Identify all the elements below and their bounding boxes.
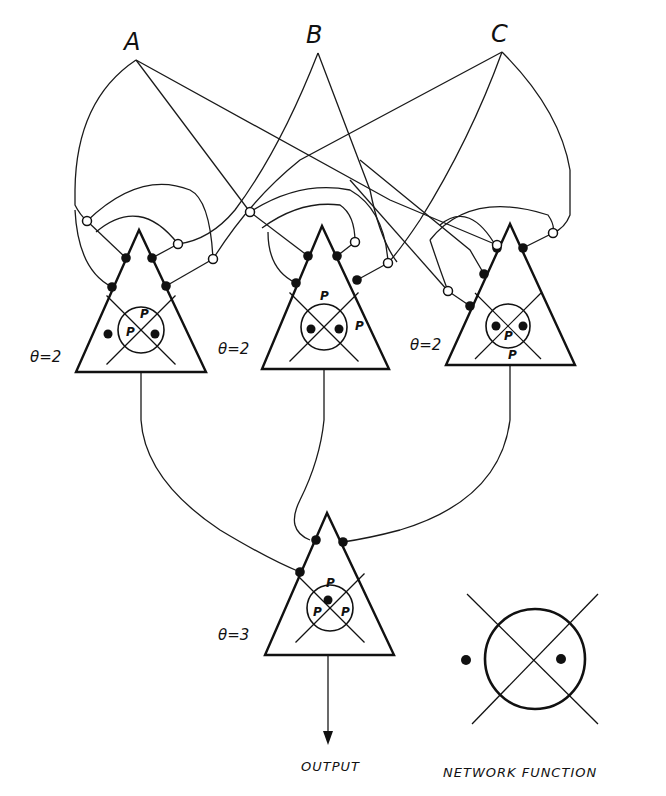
- inhibitory-synapse-icon: [444, 287, 453, 296]
- legend-dot: [461, 655, 471, 665]
- excitatory-synapse-icon: [465, 301, 475, 311]
- p-label: P: [508, 348, 517, 362]
- p-label: P: [504, 329, 513, 343]
- wire: [166, 259, 213, 286]
- unit-2: PPθ=2: [218, 226, 389, 369]
- wire: [250, 212, 308, 256]
- excitatory-synapse-icon: [303, 251, 313, 261]
- inhibitory-synapse-icon: [384, 259, 393, 268]
- output: OUTPUT: [301, 655, 360, 774]
- function-dot: [104, 330, 113, 339]
- threshold-label: θ=2: [410, 336, 441, 354]
- inhibitory-synapse-icon: [83, 217, 92, 226]
- p-label: P: [140, 307, 149, 321]
- excitatory-synapse-icon: [291, 278, 301, 288]
- inhibitory-synapse-icon: [493, 241, 502, 250]
- function-dot: [492, 322, 501, 331]
- wire: [87, 221, 126, 258]
- function-dot: [324, 596, 333, 605]
- wire: [262, 204, 355, 242]
- p-label: P: [326, 576, 335, 590]
- wire: [96, 216, 178, 244]
- threshold-label: θ=2: [218, 340, 249, 358]
- wire: [75, 60, 136, 221]
- inhibitory-synapse-icon: [549, 229, 558, 238]
- wire: [268, 232, 296, 283]
- p-label: P: [313, 605, 322, 619]
- excitatory-synapse-icon: [121, 253, 131, 263]
- excitatory-synapse-icon: [107, 282, 117, 292]
- wire: [502, 52, 570, 233]
- wire: [388, 52, 502, 263]
- p-label: P: [320, 289, 329, 303]
- wire: [75, 210, 112, 287]
- threshold-label: θ=2: [30, 348, 61, 366]
- function-dot: [335, 325, 344, 334]
- input-label-C: C: [491, 20, 508, 48]
- legend-dot: [556, 654, 566, 664]
- output-label: OUTPUT: [301, 759, 360, 774]
- threshold-unit-triangle: [446, 224, 575, 365]
- perceptron-network-diagram: PPθ=2PPθ=2PPθ=2PPPθ=3 ABC OUTPUT NETWORK…: [0, 0, 666, 796]
- inhibitory-synapse-icon: [351, 238, 360, 247]
- function-dot: [519, 322, 528, 331]
- wire: [294, 369, 324, 540]
- p-label: P: [126, 325, 135, 339]
- excitatory-synapse-icon: [147, 253, 157, 263]
- wire: [141, 372, 300, 572]
- connection-wires: [75, 52, 570, 572]
- p-label: P: [355, 319, 364, 333]
- wire: [357, 263, 388, 280]
- input-label-B: B: [306, 21, 322, 49]
- excitatory-synapse-icon: [332, 251, 342, 261]
- output-arrowhead-icon: [323, 731, 333, 745]
- threshold-label: θ=3: [218, 626, 249, 644]
- p-label: P: [341, 605, 350, 619]
- wire: [430, 207, 553, 240]
- legend-caption: NETWORK FUNCTION: [443, 765, 597, 780]
- wire: [87, 184, 213, 259]
- excitatory-synapse-icon: [295, 567, 305, 577]
- network-function-legend: NETWORK FUNCTION: [443, 594, 598, 780]
- inhibitory-synapse-icon: [246, 208, 255, 217]
- wire: [318, 53, 397, 262]
- excitatory-synapse-icon: [161, 281, 171, 291]
- input-nodes: ABC: [122, 20, 508, 56]
- excitatory-synapse-icon: [338, 537, 348, 547]
- threshold-unit-triangle: [76, 230, 206, 372]
- inhibitory-synapse-icon: [209, 255, 218, 264]
- function-dot: [307, 325, 316, 334]
- wire: [343, 365, 510, 542]
- input-label-A: A: [122, 28, 140, 56]
- excitatory-synapse-icon: [479, 269, 489, 279]
- inhibitory-synapse-icon: [174, 240, 183, 249]
- network-canvas: PPθ=2PPθ=2PPθ=2PPPθ=3 ABC OUTPUT NETWORK…: [0, 0, 666, 796]
- wire: [136, 60, 250, 212]
- function-dot: [151, 330, 160, 339]
- excitatory-synapse-icon: [311, 535, 321, 545]
- wire: [430, 240, 448, 291]
- wire: [136, 60, 497, 245]
- excitatory-synapse-icon: [352, 275, 362, 285]
- excitatory-synapse-icon: [518, 243, 528, 253]
- unit-out: PPPθ=3: [218, 513, 394, 655]
